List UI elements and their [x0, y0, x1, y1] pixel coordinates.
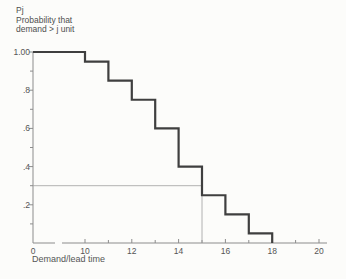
- x-tick-label: 12: [121, 246, 143, 256]
- y-tick-label: .6: [0, 123, 30, 133]
- y-tick-label: .2: [0, 200, 30, 210]
- chart-canvas: [0, 0, 346, 279]
- axes-group: [33, 52, 327, 243]
- step-curve-group: [33, 52, 272, 243]
- y-tick-label: .8: [0, 85, 30, 95]
- x-tick-label: 20: [308, 246, 330, 256]
- x-axis-title: Demand/lead time: [32, 254, 105, 264]
- step-chart-figure: Pj Probability that demand > j unit 1.00…: [0, 0, 346, 279]
- x-tick-label: 14: [168, 246, 190, 256]
- x-tick-label: 16: [214, 246, 236, 256]
- x-tick-label: 18: [261, 246, 283, 256]
- y-tick-label: 1.00: [0, 47, 30, 57]
- ticks-group: [29, 52, 319, 243]
- reference-lines-group: [33, 186, 202, 243]
- step-curve: [33, 52, 272, 243]
- y-tick-label: .4: [0, 162, 30, 172]
